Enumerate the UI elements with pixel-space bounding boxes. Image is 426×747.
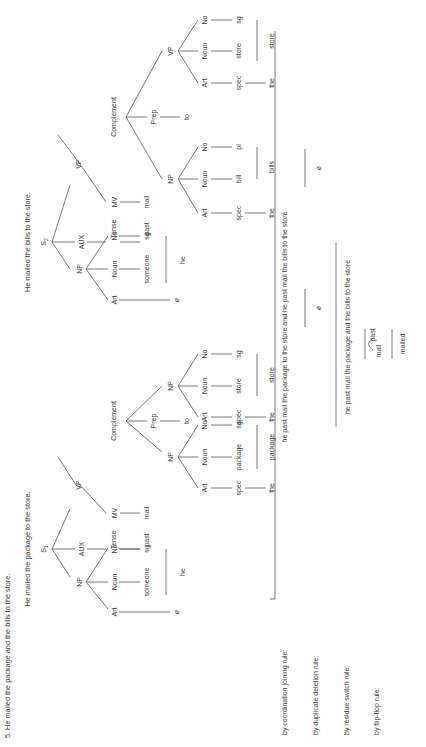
s1-root: S1 <box>40 545 49 552</box>
s2-pp-art-val: spec <box>235 76 242 91</box>
s2-pp-art: Art <box>201 79 208 88</box>
s2-obj-art: Art <box>201 209 208 218</box>
residue-switch-result: he past mail the package and the bills t… <box>344 260 351 414</box>
s2-obj-word: bills <box>268 161 275 173</box>
s2-tense: Tense <box>110 220 117 239</box>
s1-tense-val: past <box>143 533 150 546</box>
s1-np-art: Art <box>111 608 118 617</box>
s1-obj-no: No <box>201 421 208 430</box>
flip-mail: mail <box>375 345 382 358</box>
s2-pp-noun-val: store <box>235 43 242 59</box>
example-number: 5. <box>3 732 12 738</box>
s1-obj-noun: Noun <box>201 449 208 466</box>
s1-obj-np: NP <box>167 452 174 462</box>
s2-np-noun: Noun <box>111 261 118 278</box>
s2-aux: AUX <box>78 235 85 249</box>
s1-obj-noun-val: package <box>235 444 242 470</box>
s2-np: NP <box>76 264 83 274</box>
s2-prep-val: to <box>183 114 190 120</box>
s1-pp-noun-val: store <box>235 378 242 394</box>
s2-prep: Prep <box>150 110 157 125</box>
deletion-null-1: ø <box>315 306 322 310</box>
residue-switch-rule-label: by residue switch rule: <box>343 666 350 735</box>
s1-obj-art-word: the <box>268 483 275 493</box>
s1-aux: AUX <box>78 542 85 556</box>
s1-mv: MV <box>111 508 118 519</box>
s1-pp-art: Art <box>201 413 208 422</box>
rotated-page: 5. He mailed the package and the bills t… <box>0 0 426 747</box>
s1-vp: VP <box>75 480 82 489</box>
s2-pp-noun: Noun <box>201 43 208 60</box>
s1-np-noun: Noun <box>111 574 118 591</box>
flip-past: past <box>369 328 376 341</box>
s2-root: S2 <box>40 238 49 245</box>
s1-pp-no: No <box>201 350 208 359</box>
flip-flop-rule-label: by flip-flop rule: <box>373 688 380 735</box>
s2-obj-noun: Noun <box>201 171 208 188</box>
s1-pp-noun: Noun <box>201 378 208 395</box>
s1-np-word: he <box>179 568 186 576</box>
s2-vp: VP <box>75 159 82 168</box>
s2-obj-noun-val: bill <box>235 175 242 184</box>
s2-mv-val: mail <box>143 196 150 209</box>
s2-pp-no-val: sg <box>235 16 242 23</box>
coordination-rule-label: by coordination joining rule: <box>281 650 288 735</box>
s2-pp-art-word: the <box>268 78 275 88</box>
s1-prep-val: to <box>183 418 190 424</box>
deletion-rule-label: by duplicate deletion rule: <box>312 656 319 735</box>
s2-sentence: He mailed the bills to the store. <box>24 192 31 292</box>
s1-pp-np: NP <box>167 381 174 391</box>
deletion-null-2: ø <box>315 166 322 170</box>
s1-obj-word: package <box>268 434 275 460</box>
s1-prep: Prep <box>150 414 157 429</box>
s1-pp-art-val: spec <box>235 410 242 425</box>
s1-pp-art-word: the <box>268 412 275 422</box>
s2-pp-vp: VP <box>167 46 174 55</box>
s1-obj-art: Art <box>201 484 208 493</box>
coordination-result: he past mail the package to the store an… <box>281 212 288 443</box>
s1-pp-no-val: sg <box>235 350 242 357</box>
s1-mv-val: mail <box>143 507 150 520</box>
s1-complement: Complement <box>110 401 117 441</box>
tree-lines <box>0 0 426 747</box>
s2-tense-val: past <box>143 222 150 235</box>
s2-np-word: he <box>179 256 186 264</box>
s2-obj-no: No <box>201 143 208 152</box>
s1-np-art-val: ø <box>173 610 180 614</box>
s2-complement: Complement <box>110 97 117 137</box>
s2-obj-art-val: spec <box>235 206 242 221</box>
s2-mv: MV <box>111 197 118 208</box>
example-sentence: 5. He mailed the package and the bills t… <box>4 574 11 738</box>
s2-obj-np: NP <box>167 174 174 184</box>
s2-pp-word: store <box>268 33 275 49</box>
s1-tense: Tense <box>110 531 117 550</box>
s1-np-noun-val: someone <box>143 568 150 597</box>
s2-np-art: Art <box>111 296 118 305</box>
flip-result: mailed <box>399 334 406 355</box>
s1-sentence: He mailed the package to the store. <box>24 491 31 606</box>
s1-pp-word: store <box>268 367 275 383</box>
s1-obj-art-val: spec <box>235 481 242 496</box>
s2-obj-art-word: the <box>268 208 275 218</box>
s2-obj-no-val: pl <box>235 144 242 149</box>
s2-np-noun-val: someone <box>143 255 150 284</box>
s2-pp-no: No <box>201 16 208 25</box>
example-text: He mailed the package and the bills to t… <box>3 574 12 730</box>
s2-np-art-val: ø <box>173 298 180 302</box>
s1-np: NP <box>76 577 83 587</box>
